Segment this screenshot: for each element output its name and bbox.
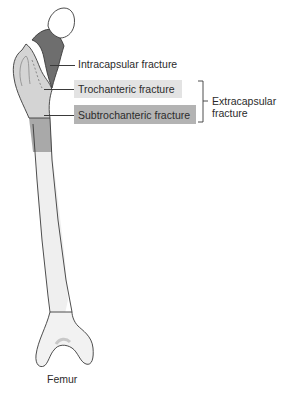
subtrochanteric-fracture-label: Subtrochanteric fracture <box>78 109 190 122</box>
intracapsular-leader <box>50 65 75 66</box>
trochanteric-fracture-label: Trochanteric fracture <box>78 83 174 96</box>
femur-shaft <box>35 152 68 318</box>
femur-caption: Femur <box>47 373 77 386</box>
extracapsular-bracket <box>198 81 208 122</box>
subtrochanteric-region <box>29 118 52 152</box>
femoral-head <box>48 8 75 38</box>
intracapsular-fracture-label: Intracapsular fracture <box>78 58 177 71</box>
extracapsular-fracture-label-line2: fracture <box>212 107 248 120</box>
trochanteric-leader <box>44 89 74 90</box>
subtrochanteric-leader <box>44 115 74 116</box>
